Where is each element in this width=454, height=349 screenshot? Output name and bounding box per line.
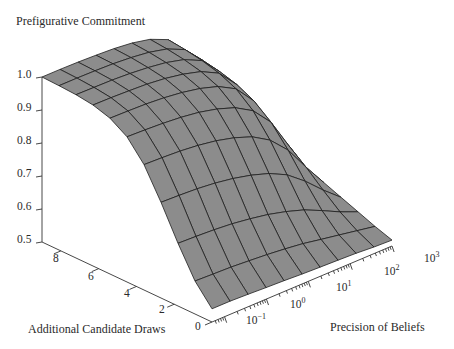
x-tick-label: 101 [336, 281, 352, 293]
x-tick-label: 103 [424, 252, 440, 264]
x-axis-title: Precision of Beliefs [330, 320, 425, 335]
z-tick-label: 0.9 [17, 101, 31, 113]
y-tick-label: 8 [53, 252, 59, 264]
x-tick-exp: 3 [436, 250, 440, 259]
z-tick-label: 0.7 [17, 167, 31, 179]
y-tick-label: 2 [159, 303, 165, 315]
x-tick-base: 10 [290, 298, 302, 310]
y-axis-title: Additional Candidate Draws [28, 322, 165, 337]
x-tick-base: 10 [336, 281, 348, 293]
x-tick-label: 10−1 [246, 314, 266, 326]
z-tick-label: 0.5 [17, 233, 31, 245]
y-tick-label: 4 [124, 287, 130, 299]
surface-plot [0, 0, 454, 349]
x-tick-exp: 0 [302, 296, 306, 305]
x-tick-exp: 1 [348, 279, 352, 288]
x-tick-label: 102 [384, 265, 400, 277]
x-tick-base: 10 [246, 314, 258, 326]
z-tick-label: 1.0 [17, 68, 31, 80]
x-tick-base: 10 [424, 252, 436, 264]
z-axis-title: Prefigurative Commitment [16, 14, 145, 29]
x-tick-exp: −1 [258, 312, 267, 321]
y-tick-label: 0 [195, 320, 201, 332]
z-tick-label: 0.8 [17, 134, 31, 146]
x-tick-exp: 2 [396, 263, 400, 272]
x-tick-base: 10 [384, 265, 396, 277]
z-tick-label: 0.6 [17, 200, 31, 212]
x-tick-label: 100 [290, 298, 306, 310]
y-tick-label: 6 [88, 270, 94, 282]
